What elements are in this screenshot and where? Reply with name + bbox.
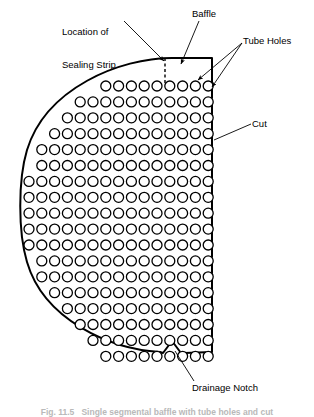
- tube-hole: [114, 240, 124, 250]
- figure-caption: Fig. 11.5 Single segmental baffle with t…: [0, 407, 314, 417]
- tube-hole: [101, 145, 111, 155]
- tube-hole: [203, 192, 213, 202]
- tube-hole: [50, 272, 60, 282]
- tube-hole: [75, 192, 85, 202]
- tube-hole: [165, 272, 175, 282]
- tube-hole: [126, 351, 136, 361]
- tube-hole: [101, 304, 111, 314]
- tube-hole: [152, 272, 162, 282]
- tube-hole: [75, 320, 85, 330]
- tube-hole: [101, 208, 111, 218]
- tube-hole: [101, 240, 111, 250]
- tube-hole: [190, 351, 200, 361]
- tube-hole: [75, 113, 85, 123]
- tube-hole: [101, 320, 111, 330]
- tube-hole: [139, 192, 149, 202]
- tube-hole: [88, 176, 98, 186]
- tube-hole: [37, 240, 47, 250]
- tube-hole: [190, 97, 200, 107]
- tube-hole: [24, 208, 34, 218]
- tube-hole: [152, 256, 162, 266]
- tube-hole: [203, 320, 213, 330]
- tube-hole: [24, 240, 34, 250]
- tube-hole: [126, 240, 136, 250]
- tube-hole: [178, 192, 188, 202]
- tube-hole: [37, 176, 47, 186]
- tube-hole: [126, 256, 136, 266]
- tube-hole: [165, 288, 175, 298]
- tube-hole: [24, 176, 34, 186]
- tube-hole: [75, 304, 85, 314]
- tube-hole: [101, 176, 111, 186]
- tube-hole: [126, 335, 136, 345]
- tube-hole: [101, 288, 111, 298]
- tube-hole: [203, 335, 213, 345]
- tube-hole: [152, 113, 162, 123]
- tube-hole: [203, 304, 213, 314]
- tube-hole: [152, 335, 162, 345]
- tube-hole: [88, 145, 98, 155]
- tube-hole: [62, 129, 72, 139]
- tube-hole: [152, 240, 162, 250]
- tube-hole: [190, 129, 200, 139]
- tube-hole: [139, 304, 149, 314]
- tube-hole: [165, 351, 175, 361]
- tube-hole: [126, 113, 136, 123]
- tube-hole: [88, 129, 98, 139]
- tube-hole: [88, 192, 98, 202]
- tube-hole: [190, 272, 200, 282]
- tube-hole: [75, 145, 85, 155]
- tube-hole: [152, 81, 162, 91]
- tube-hole: [62, 256, 72, 266]
- leader-cut: [214, 124, 251, 140]
- tube-hole: [190, 145, 200, 155]
- tube-hole: [75, 129, 85, 139]
- tube-hole: [101, 113, 111, 123]
- tube-hole: [178, 256, 188, 266]
- tube-hole: [152, 129, 162, 139]
- label-baffle: Baffle: [192, 8, 216, 19]
- tube-hole: [126, 97, 136, 107]
- tube-hole: [126, 288, 136, 298]
- tube-hole: [152, 145, 162, 155]
- tube-hole: [178, 224, 188, 234]
- tube-hole: [37, 161, 47, 171]
- tube-hole: [37, 224, 47, 234]
- tube-hole: [62, 208, 72, 218]
- tube-hole: [50, 208, 60, 218]
- tube-hole: [114, 161, 124, 171]
- tube-hole: [62, 224, 72, 234]
- tube-hole: [139, 272, 149, 282]
- tube-hole: [50, 256, 60, 266]
- tube-hole: [24, 192, 34, 202]
- label-sealing-strip-line1: Location of: [62, 26, 116, 37]
- tube-hole: [165, 208, 175, 218]
- tube-hole: [190, 113, 200, 123]
- tube-hole: [126, 320, 136, 330]
- tube-hole: [126, 208, 136, 218]
- tube-hole: [62, 240, 72, 250]
- tube-hole: [203, 81, 213, 91]
- tube-hole: [75, 272, 85, 282]
- tube-hole: [114, 129, 124, 139]
- tube-hole: [114, 351, 124, 361]
- tube-hole: [139, 145, 149, 155]
- tube-hole: [139, 97, 149, 107]
- tube-hole: [178, 129, 188, 139]
- tube-hole: [139, 335, 149, 345]
- tube-hole: [139, 176, 149, 186]
- tube-hole: [126, 304, 136, 314]
- tube-hole: [50, 129, 60, 139]
- tube-hole: [114, 224, 124, 234]
- tube-hole: [152, 161, 162, 171]
- tube-hole: [37, 145, 47, 155]
- tube-hole: [203, 272, 213, 282]
- tube-hole: [114, 288, 124, 298]
- tube-hole: [50, 161, 60, 171]
- tube-hole: [62, 145, 72, 155]
- tube-hole: [75, 240, 85, 250]
- tube-hole: [50, 240, 60, 250]
- tube-hole: [203, 113, 213, 123]
- tube-hole: [126, 161, 136, 171]
- tube-hole: [101, 335, 111, 345]
